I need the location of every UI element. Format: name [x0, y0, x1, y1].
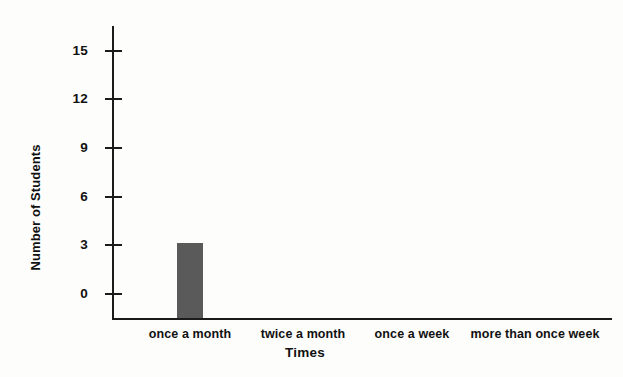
- bar-once-a-month: [177, 243, 203, 318]
- y-axis-tick-0: [105, 293, 122, 295]
- y-axis-tick-label-15: 15: [48, 44, 88, 58]
- y-axis-tick-6: [105, 196, 122, 198]
- y-axis-tick-15: [105, 50, 122, 52]
- x-axis-title: Times: [245, 345, 365, 360]
- x-axis-tick-label-more-than-once-week: more than once week: [455, 327, 615, 341]
- y-axis-tick-12: [105, 98, 122, 100]
- y-axis-tick-label-12: 12: [48, 92, 88, 106]
- y-axis-line: [112, 26, 114, 319]
- y-axis-tick-label-0: 0: [48, 287, 88, 301]
- y-axis-tick-9: [105, 147, 122, 149]
- y-axis-tick-3: [105, 244, 122, 246]
- bar-chart: 15 12 9 6 3 0 Number of Students once a …: [0, 0, 623, 377]
- y-axis-tick-label-3: 3: [48, 238, 88, 252]
- y-axis-title: Number of Students: [28, 128, 43, 288]
- x-axis-tick-label-once-a-month: once a month: [130, 327, 250, 341]
- x-axis-line: [112, 318, 612, 320]
- y-axis-tick-label-9: 9: [48, 141, 88, 155]
- x-axis-tick-label-twice-a-month: twice a month: [243, 327, 363, 341]
- y-axis-tick-label-6: 6: [48, 190, 88, 204]
- x-axis-tick-label-once-a-week: once a week: [357, 327, 467, 341]
